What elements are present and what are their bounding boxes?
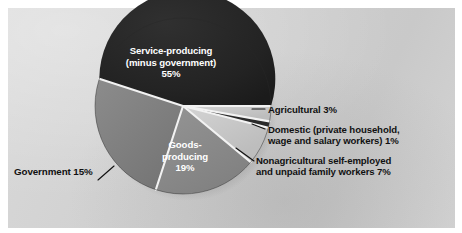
slice-label-domestic-line2: wage and salary workers) 1% bbox=[268, 135, 399, 146]
slice-label-nonagricultural-line2: and unpaid family workers 7% bbox=[256, 166, 391, 177]
slice-label-goods-line2: producing bbox=[162, 151, 208, 162]
slice-label-goods-producing: Goods- producing 19% bbox=[152, 139, 218, 174]
slice-label-goods-line1: Goods- bbox=[169, 139, 202, 150]
slice-label-service-line2: (minus government) bbox=[126, 57, 216, 68]
leader-line-government bbox=[98, 166, 114, 180]
slice-label-goods-value: 19% bbox=[176, 162, 195, 173]
slice-label-service-value: 55% bbox=[162, 68, 181, 79]
chart-area: Service-producing (minus government) 55%… bbox=[0, 0, 462, 233]
pie-chart-figure: Service-producing (minus government) 55%… bbox=[0, 0, 462, 233]
slice-label-agricultural: Agricultural 3% bbox=[268, 104, 337, 115]
slice-label-service-producing: Service-producing (minus government) 55% bbox=[100, 45, 242, 80]
slice-label-domestic-line1: Domestic (private household, bbox=[268, 124, 400, 135]
slice-label-nonagricultural-line1: Nonagricultural self-employed bbox=[256, 155, 391, 166]
slice-label-service-line1: Service-producing bbox=[130, 45, 213, 56]
slice-label-government: Government 15% bbox=[14, 166, 93, 177]
pie-svg bbox=[0, 0, 462, 233]
slice-label-nonagricultural: Nonagricultural self-employed and unpaid… bbox=[256, 155, 456, 178]
slice-label-domestic: Domestic (private household, wage and sa… bbox=[268, 124, 454, 147]
